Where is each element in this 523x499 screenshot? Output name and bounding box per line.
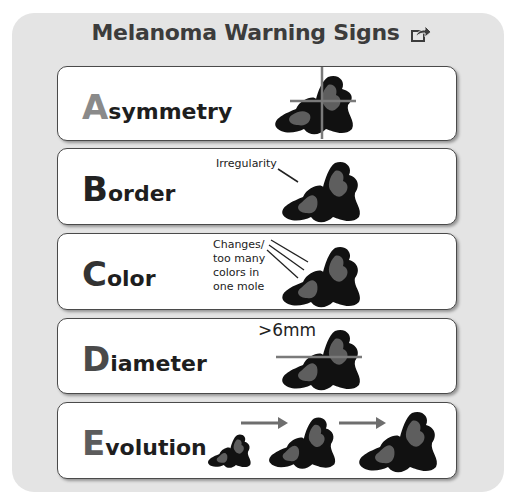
mole-diameter-icon	[58, 319, 458, 395]
card-evolution: Evolution	[57, 402, 457, 479]
card-border: Border Irregularity	[57, 148, 457, 225]
mole-color-icon	[58, 234, 458, 311]
page-title: Melanoma Warning Signs	[0, 20, 523, 45]
card-diameter: Diameter >6mm	[57, 318, 457, 394]
mole-border-icon	[58, 149, 458, 226]
mole-evolution-icon	[58, 403, 458, 480]
arrow-right-icon	[241, 417, 288, 429]
card-asymmetry: Asymmetry	[57, 66, 457, 141]
arrow-right-icon	[339, 417, 386, 429]
mole-asymmetry-icon	[58, 67, 458, 142]
share-icon[interactable]	[410, 23, 432, 41]
card-color: Color Changes/ too many colors in one mo…	[57, 233, 457, 310]
title-text: Melanoma Warning Signs	[91, 20, 399, 45]
